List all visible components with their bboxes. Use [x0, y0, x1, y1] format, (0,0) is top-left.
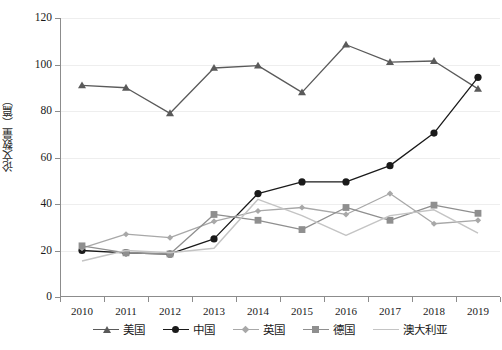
- legend-symbol-icon: [163, 323, 189, 335]
- series-line: [82, 45, 478, 114]
- legend-item-澳大利亚[interactable]: 澳大利亚: [373, 321, 447, 337]
- data-point-marker: [474, 85, 482, 92]
- data-point-marker: [475, 210, 482, 217]
- chart-legend: 美国中国英国德国澳大利亚: [60, 320, 480, 338]
- data-point-marker: [123, 231, 129, 237]
- data-point-marker: [167, 235, 173, 241]
- series-0: [78, 41, 482, 116]
- series-plot-area: [0, 0, 502, 350]
- data-point-marker: [78, 81, 86, 88]
- series-line: [82, 194, 478, 249]
- data-point-marker: [343, 211, 349, 217]
- legend-item-德国[interactable]: 德国: [303, 321, 355, 337]
- legend-marker-diamond-icon: [242, 325, 250, 333]
- data-point-marker: [430, 129, 437, 136]
- legend-line: [373, 329, 399, 331]
- data-point-marker: [431, 202, 438, 209]
- legend-symbol-icon: [303, 323, 329, 335]
- legend-label: 英国: [263, 321, 285, 337]
- legend-label: 中国: [193, 321, 215, 337]
- data-point-marker: [211, 211, 218, 218]
- legend-marker-triangle-icon: [103, 326, 111, 333]
- legend-label: 美国: [123, 321, 145, 337]
- data-point-marker: [255, 217, 262, 224]
- data-point-marker: [474, 74, 481, 81]
- data-point-marker: [343, 204, 350, 211]
- data-point-marker: [298, 178, 305, 185]
- data-point-marker: [342, 41, 350, 48]
- legend-marker-circle-icon: [172, 326, 179, 333]
- data-point-marker: [386, 162, 393, 169]
- data-point-marker: [254, 190, 261, 197]
- legend-label: 德国: [333, 321, 355, 337]
- data-point-marker: [210, 235, 217, 242]
- legend-marker-square-icon: [312, 326, 319, 333]
- series-3: [79, 202, 482, 258]
- data-point-marker: [387, 217, 394, 224]
- chart-figure: 论文数量（篇） 020406080100120 2010201120122013…: [0, 0, 502, 350]
- legend-symbol-icon: [233, 323, 259, 335]
- data-point-marker: [299, 226, 306, 233]
- data-point-marker: [342, 178, 349, 185]
- data-point-marker: [255, 208, 261, 214]
- legend-symbol-icon: [373, 323, 399, 335]
- series-2: [79, 190, 481, 251]
- legend-item-英国[interactable]: 英国: [233, 321, 285, 337]
- series-1: [78, 74, 481, 258]
- data-point-marker: [79, 242, 86, 249]
- data-point-marker: [254, 62, 262, 69]
- data-point-marker: [211, 218, 217, 224]
- data-point-marker: [475, 217, 481, 223]
- data-point-marker: [299, 204, 305, 210]
- legend-item-中国[interactable]: 中国: [163, 321, 215, 337]
- legend-symbol-icon: [93, 323, 119, 335]
- legend-label: 澳大利亚: [403, 321, 447, 337]
- data-point-marker: [167, 251, 174, 258]
- legend-item-美国[interactable]: 美国: [93, 321, 145, 337]
- series-line: [82, 77, 478, 254]
